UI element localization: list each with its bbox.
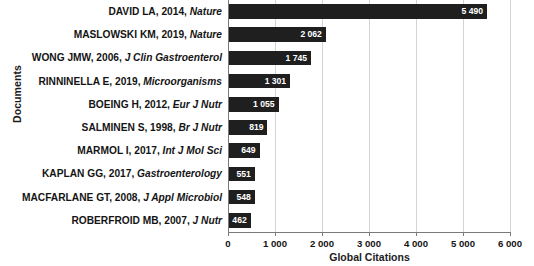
category-label-author: DAVID LA, 2014, [108,6,189,17]
category-label: MARMOL I, 2017, Int J Mol Sci [77,139,222,162]
bar-row[interactable]: 1 745 [229,46,511,69]
category-label-author: MASLOWSKI KM, 2019, [74,29,190,40]
bar-row[interactable]: 649 [229,139,511,162]
bar-value-label: 2 062 [229,27,326,42]
x-axis-tick-label: 2 000 [310,238,334,249]
category-label-journal: Br J Nutr [178,122,222,133]
bar-value-label: 819 [229,120,267,135]
category-label-author: MARMOL I, 2017, [77,145,162,156]
x-axis-tick [510,232,511,236]
bar-row[interactable]: 1 301 [229,70,511,93]
category-label-journal: Microorganisms [143,76,222,87]
category-label: RINNINELLA E, 2019, Microorganisms [38,70,222,93]
bar-row[interactable]: 551 [229,162,511,185]
category-label-column: DAVID LA, 2014, NatureMASLOWSKI KM, 2019… [18,0,226,232]
category-label-journal: J Appl Microbiol [143,192,222,203]
bar-value-label: 5 490 [229,4,487,19]
x-axis-tick [416,232,417,236]
category-label: WONG JMW, 2006, J Clin Gastroenterol [32,46,222,69]
category-label-journal: Nature [190,6,222,17]
bar-row[interactable]: 2 062 [229,23,511,46]
category-label-journal: Nature [190,29,222,40]
x-axis-tick [369,232,370,236]
global-citations-bar-chart: Documents DAVID LA, 2014, NatureMASLOWSK… [0,0,534,266]
x-axis-title: Global Citations [228,251,511,263]
bar-value-label: 551 [229,167,255,182]
x-axis-tick-label: 5 000 [451,238,475,249]
category-label: KAPLAN GG, 2017, Gastroenterology [42,162,222,185]
x-axis-tick-label: 3 000 [357,238,381,249]
category-label: BOEING H, 2012, Eur J Nutr [88,93,222,116]
x-axis-tick-label: 1 000 [263,238,287,249]
bar-row[interactable]: 462 [229,209,511,232]
x-axis-tick-label: 0 [225,238,230,249]
x-axis-tick [228,232,229,236]
plot-area: 01 0002 0003 0004 0005 0006 0005 4902 06… [228,0,510,232]
category-label-author: KAPLAN GG, 2017, [42,168,137,179]
x-axis-tick [463,232,464,236]
category-label: MACFARLANE GT, 2008, J Appl Microbiol [22,186,222,209]
category-label-author: BOEING H, 2012, [88,99,172,110]
category-label-author: WONG JMW, 2006, [32,52,125,63]
category-label-journal: Gastroenterology [137,168,222,179]
bar-row[interactable]: 819 [229,116,511,139]
category-label: DAVID LA, 2014, Nature [108,0,222,23]
x-axis-tick [322,232,323,236]
bar-value-label: 1 301 [229,74,290,89]
x-axis-tick [275,232,276,236]
category-label-journal: Eur J Nutr [173,99,222,110]
bar-value-label: 1 055 [229,97,279,112]
bar-value-label: 462 [229,213,251,228]
bar-row[interactable]: 5 490 [229,0,511,23]
category-label-author: SALMINEN S, 1998, [82,122,179,133]
bar-row[interactable]: 1 055 [229,93,511,116]
category-label: SALMINEN S, 1998, Br J Nutr [82,116,222,139]
bar-value-label: 1 745 [229,51,311,66]
category-label: ROBERFROID MB, 2007, J Nutr [71,209,222,232]
x-axis-tick-label: 4 000 [404,238,428,249]
category-label-journal: J Clin Gastroenterol [125,52,222,63]
category-label-author: ROBERFROID MB, 2007, [71,215,192,226]
bar-value-label: 548 [229,190,255,205]
category-label-author: RINNINELLA E, 2019, [38,76,143,87]
bar-row[interactable]: 548 [229,186,511,209]
x-axis-tick-label: 6 000 [498,238,522,249]
category-label: MASLOWSKI KM, 2019, Nature [74,23,222,46]
bar-value-label: 649 [229,143,260,158]
category-label-journal: J Nutr [193,215,222,226]
category-label-journal: Int J Mol Sci [163,145,222,156]
category-label-author: MACFARLANE GT, 2008, [22,192,143,203]
